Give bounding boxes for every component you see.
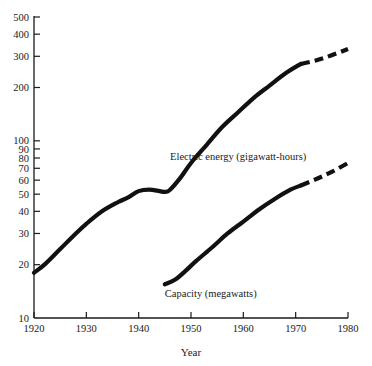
y-tick-label: 50 <box>19 189 30 200</box>
y-tick-label: 200 <box>13 82 29 93</box>
x-tick-label: 1970 <box>285 323 306 334</box>
y-tick-label: 400 <box>13 29 29 40</box>
x-tick-label: 1920 <box>24 323 45 334</box>
x-tick-label: 1980 <box>338 323 359 334</box>
data-series-group <box>34 49 348 284</box>
y-tick-label: 20 <box>19 259 30 270</box>
series-line-solid-0 <box>34 64 301 273</box>
y-tick-label: 60 <box>19 175 30 186</box>
y-tick-label: 30 <box>19 228 30 239</box>
series-line-dashed-0 <box>301 49 348 64</box>
x-tick-label: 1950 <box>181 323 202 334</box>
line-chart: 102030405060708090100200300400500 192019… <box>0 0 372 366</box>
y-tick-label: 500 <box>13 12 29 23</box>
series-line-solid-1 <box>165 185 301 284</box>
series-label-1: Capacity (megawatts) <box>165 288 257 300</box>
series-line-dashed-1 <box>301 163 348 185</box>
x-axis: 1920193019401950196019701980 <box>24 312 359 334</box>
x-tick-label: 1930 <box>76 323 97 334</box>
x-axis-title: Year <box>181 346 202 358</box>
y-tick-label: 70 <box>19 163 30 174</box>
y-tick-label: 100 <box>13 135 29 146</box>
y-tick-label: 300 <box>13 51 29 62</box>
x-tick-label: 1940 <box>128 323 149 334</box>
x-tick-label: 1960 <box>233 323 254 334</box>
y-tick-label: 40 <box>19 206 30 217</box>
y-axis: 102030405060708090100200300400500 <box>13 12 40 324</box>
y-tick-label: 10 <box>19 313 30 324</box>
chart-container: 102030405060708090100200300400500 192019… <box>0 0 372 366</box>
series-label-0: Electric energy (gigawatt-hours) <box>170 151 307 163</box>
